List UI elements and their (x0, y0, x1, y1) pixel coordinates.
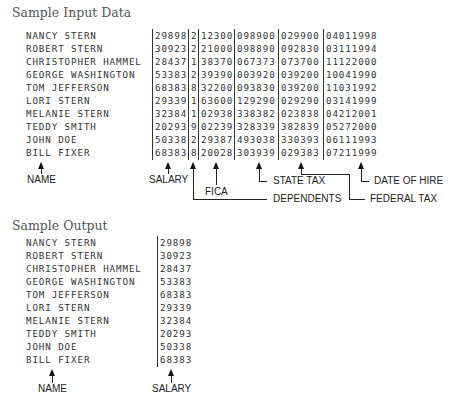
cell-name: JOHN DOE (26, 133, 77, 146)
cell-dependents: 8 (191, 146, 197, 159)
cell-name: GEORGE WASHINGTON (26, 275, 135, 288)
cell-name: ROBERT STERN (26, 249, 103, 262)
cell-salary: 50338 (155, 133, 187, 146)
cell-name: CHRISTOPHER HAMMEL (26, 262, 142, 275)
cell-salary: 32384 (155, 107, 187, 120)
cell-fica: 20028 (201, 146, 233, 159)
table-row: ROBERT STERN30923 (0, 249, 453, 262)
table-row: TEDDY SMITH20293 (0, 327, 453, 340)
table-row: GEORGE WASHINGTON53383239390003920039200… (0, 68, 453, 81)
column-divider (234, 29, 235, 160)
cell-dependents: 9 (191, 120, 197, 133)
cell-state-tax: 003920 (237, 68, 276, 81)
cell-date-of-hire: 10041990 (326, 68, 377, 81)
cell-dependents: 1 (191, 55, 197, 68)
label-federal-tax: FEDERAL TAX (370, 193, 437, 204)
arrow-stem (259, 168, 260, 181)
cell-date-of-hire: 11122000 (326, 55, 377, 68)
arrow-stem (349, 174, 350, 199)
label-salary: SALARY (152, 383, 191, 394)
cell-name: MELANIE STERN (26, 314, 110, 327)
cell-salary: 20293 (160, 327, 192, 340)
label-dependents: DEPENDENTS (273, 193, 341, 204)
cell-fica: 38370 (201, 55, 233, 68)
cell-state-tax: 303939 (237, 146, 276, 159)
cell-fica: 29387 (201, 133, 233, 146)
column-divider (152, 29, 153, 160)
cell-name: TEDDY SMITH (26, 120, 97, 133)
cell-state-tax: 067373 (237, 55, 276, 68)
leader-line (349, 199, 365, 200)
cell-date-of-hire: 04011998 (326, 29, 377, 42)
cell-state-tax: 098890 (237, 42, 276, 55)
cell-dependents: 2 (191, 29, 197, 42)
cell-name: JOHN DOE (26, 340, 77, 353)
label-date-of-hire: DATE OF HIRE (374, 175, 443, 186)
cell-salary: 29339 (160, 301, 192, 314)
table-row: MELANIE STERN32384 (0, 314, 453, 327)
cell-dependents: 8 (191, 81, 197, 94)
cell-state-tax: 328339 (237, 120, 276, 133)
cell-name: GEORGE WASHINGTON (26, 68, 135, 81)
cell-state-tax: 129290 (237, 94, 276, 107)
leader-line (301, 174, 349, 175)
cell-salary: 68383 (160, 288, 192, 301)
cell-dependents: 2 (191, 42, 197, 55)
table-row: TOM JEFFERSON68383 (0, 288, 453, 301)
cell-fica: 39390 (201, 68, 233, 81)
table-row: GEORGE WASHINGTON53383 (0, 275, 453, 288)
arrow-stem (171, 375, 172, 383)
cell-name: LORI STERN (26, 94, 90, 107)
table-row: JOHN DOE50338 (0, 340, 453, 353)
arrow-stem (361, 168, 362, 181)
cell-fica: 63600 (201, 94, 233, 107)
cell-date-of-hire: 07211999 (326, 146, 377, 159)
cell-salary: 20293 (155, 120, 187, 133)
cell-name: TOM JEFFERSON (26, 81, 110, 94)
cell-federal-tax: 023838 (281, 107, 320, 120)
cell-name: CHRISTOPHER HAMMEL (26, 55, 142, 68)
label-salary: SALARY (149, 174, 188, 185)
cell-salary: 28437 (155, 55, 187, 68)
cell-date-of-hire: 06111993 (326, 133, 377, 146)
table-row: BILL FIXER683838200283039390293830721199… (0, 146, 453, 159)
cell-date-of-hire: 05272000 (326, 120, 377, 133)
arrow-stem (216, 168, 217, 185)
cell-date-of-hire: 03141999 (326, 94, 377, 107)
leader-line (193, 199, 267, 200)
cell-salary: 30923 (160, 249, 192, 262)
cell-name: ROBERT STERN (26, 42, 103, 55)
cell-federal-tax: 330393 (281, 133, 320, 146)
cell-dependents: 1 (191, 94, 197, 107)
cell-fica: 32200 (201, 81, 233, 94)
leader-line (259, 181, 267, 182)
cell-salary: 68383 (155, 81, 187, 94)
column-divider (278, 29, 279, 160)
cell-salary: 29898 (160, 236, 192, 249)
arrow-stem (193, 168, 194, 199)
table-row: CHRISTOPHER HAMMEL28437 (0, 262, 453, 275)
output-section-title: Sample Output (12, 218, 108, 233)
cell-federal-tax: 039200 (281, 81, 320, 94)
leader-line (361, 181, 369, 182)
cell-federal-tax: 073700 (281, 55, 320, 68)
table-row: NANCY STERN29898212300098900029900040119… (0, 29, 453, 42)
cell-date-of-hire: 11031992 (326, 81, 377, 94)
cell-state-tax: 093830 (237, 81, 276, 94)
cell-federal-tax: 092830 (281, 42, 320, 55)
cell-date-of-hire: 03111994 (326, 42, 377, 55)
arrow-stem (52, 375, 53, 383)
table-row: BILL FIXER68383 (0, 353, 453, 366)
column-divider (157, 236, 158, 367)
cell-fica: 21000 (201, 42, 233, 55)
cell-fica: 02239 (201, 120, 233, 133)
cell-fica: 12300 (201, 29, 233, 42)
cell-dependents: 2 (191, 133, 197, 146)
cell-salary: 53383 (160, 275, 192, 288)
label-name: NAME (27, 174, 56, 185)
label-state-tax: STATE TAX (273, 175, 325, 186)
cell-fica: 02938 (201, 107, 233, 120)
table-row: JOHN DOE5033822938749303833039306111993 (0, 133, 453, 146)
table-row: CHRISTOPHER HAMMEL2843713837006737307370… (0, 55, 453, 68)
cell-salary: 68383 (155, 146, 187, 159)
